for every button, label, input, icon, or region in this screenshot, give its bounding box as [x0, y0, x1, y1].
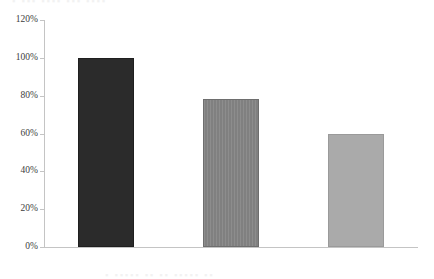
clipped-bottom-caption: ▪ ▪▪▪▪▪ ▪▪ ▪▪ ▪▪▪▪▪ ▪▪ — [105, 270, 335, 279]
bar-3[interactable] — [328, 134, 384, 248]
y-axis-tick-mark — [40, 96, 44, 97]
y-axis-tick-mark — [40, 134, 44, 135]
bar-1[interactable] — [78, 58, 134, 247]
plot-area: 0%20%40%60%80%100%120% 煤炭石油天然气 — [44, 20, 418, 247]
y-axis-tick-mark — [40, 171, 44, 172]
clipped-top-caption: ▪ ▪▪▪ ▪▪▪▪ ▪▪▪ ▪▪▪▪ — [12, 0, 222, 3]
bar-rect — [328, 134, 384, 248]
y-axis-tick-label: 120% — [16, 13, 38, 26]
chart-figure: ▪ ▪▪▪ ▪▪▪▪ ▪▪▪ ▪▪▪▪ 0%20%40%60%80%100%12… — [0, 0, 434, 279]
bar-rect — [203, 99, 259, 247]
bar-rect — [78, 58, 134, 247]
x-axis-baseline — [44, 247, 418, 248]
y-axis-tick-mark — [40, 247, 44, 248]
y-axis-tick-label: 100% — [16, 51, 38, 64]
y-axis-tick-label: 40% — [21, 164, 38, 177]
y-axis-tick-mark — [40, 20, 44, 21]
y-axis-tick-label: 60% — [21, 127, 38, 140]
y-axis-tick-mark — [40, 58, 44, 59]
y-axis-tick-label: 20% — [21, 202, 38, 215]
y-axis-tick-mark — [40, 209, 44, 210]
y-axis-tick-label: 0% — [25, 240, 38, 253]
y-axis-spine — [44, 20, 45, 247]
y-axis-tick-label: 80% — [21, 89, 38, 102]
bar-2[interactable] — [203, 99, 259, 247]
